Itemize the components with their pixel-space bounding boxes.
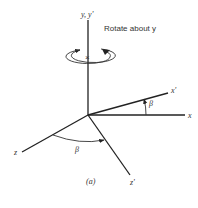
x-label: x [187, 111, 192, 120]
x-prime-axis [88, 93, 168, 115]
beta-label-z: β [74, 145, 79, 154]
rotation-diagram: y, y' Rotate about y × x' x β z β z' (a) [0, 0, 198, 208]
z-prime-axis [88, 115, 130, 175]
y-axis-label: y, y' [80, 10, 94, 19]
rotate-annotation: Rotate about y [104, 24, 156, 33]
rotation-center-mark: × [85, 53, 90, 62]
z-label: z [13, 148, 18, 157]
x-prime-label: x' [170, 86, 177, 95]
rotation-arrowhead-icon [102, 49, 110, 55]
beta-arc-z [53, 135, 104, 142]
figure-caption: (a) [86, 177, 96, 186]
beta-label-x: β [148, 99, 153, 108]
z-prime-label: z' [129, 178, 135, 187]
beta-arc-x [144, 99, 146, 115]
